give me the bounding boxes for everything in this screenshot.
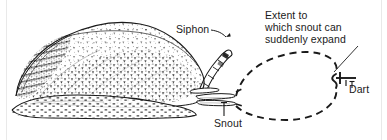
siphon xyxy=(200,50,232,92)
label-dart: Dart xyxy=(349,84,369,96)
illustration-figure: Extent to which snout can suddenly expan… xyxy=(0,0,387,140)
label-siphon: Siphon xyxy=(176,24,209,36)
snout-to-outline-connector xyxy=(236,88,246,107)
label-snout: Snout xyxy=(214,118,242,130)
snout xyxy=(190,88,236,106)
label-extent-to-which-snout-can-suddenly-expand: Extent to which snout can suddenly expan… xyxy=(265,10,346,45)
expansion-outline xyxy=(236,52,337,120)
